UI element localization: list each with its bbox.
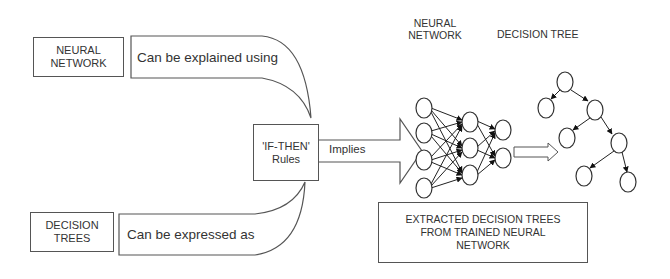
explained-callout-text: Can be explained using bbox=[137, 50, 278, 66]
explained-callout-shape bbox=[131, 36, 311, 118]
neural-network-box-line2: NETWORK bbox=[50, 57, 106, 70]
neural-network-heading: NEURAL NETWORK bbox=[405, 17, 465, 41]
nn-heading-line1: NEURAL bbox=[405, 17, 465, 29]
rules-box-line1: 'IF-THEN' bbox=[262, 140, 310, 153]
neural-network-box-line1: NEURAL bbox=[50, 44, 106, 57]
neural-network-nodes bbox=[416, 98, 511, 198]
extracted-line3: NETWORK bbox=[406, 239, 561, 252]
decision-trees-box-line1: DECISION bbox=[45, 219, 98, 232]
decision-tree-nodes bbox=[538, 72, 636, 192]
decision-trees-box-line2: TREES bbox=[45, 232, 98, 245]
hollow-arrow-icon bbox=[514, 143, 558, 161]
nn-heading-line2: NETWORK bbox=[405, 29, 465, 41]
rules-box-line2: Rules bbox=[262, 153, 310, 166]
expressed-callout-shape bbox=[119, 182, 305, 255]
neural-network-box: NEURAL NETWORK bbox=[33, 37, 124, 77]
expressed-callout-text: Can be expressed as bbox=[127, 227, 255, 243]
if-then-rules-box: 'IF-THEN' Rules bbox=[253, 124, 319, 181]
decision-trees-box: DECISION TREES bbox=[30, 212, 114, 252]
extracted-line1: EXTRACTED DECISION TREES bbox=[406, 213, 561, 226]
extracted-line2: FROM TRAINED NEURAL bbox=[406, 226, 561, 239]
implies-label: Implies bbox=[329, 143, 365, 156]
decision-tree-heading: DECISION TREE bbox=[497, 28, 579, 41]
extracted-decision-trees-box: EXTRACTED DECISION TREES FROM TRAINED NE… bbox=[378, 202, 588, 263]
